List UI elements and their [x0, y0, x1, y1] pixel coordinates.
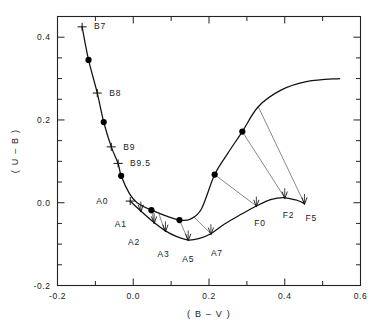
spectral-type-label: B9 — [123, 142, 135, 152]
color-color-diagram: -0.20.00.20.40.60.40.20.0-0.2( B – V )( … — [0, 0, 379, 334]
data-point-marker — [118, 173, 124, 179]
x-tick-label: 0.2 — [202, 291, 216, 301]
spectral-type-label: A5 — [182, 254, 194, 264]
y-tick-label: 0.4 — [37, 32, 51, 42]
data-point-marker — [239, 128, 245, 134]
y-tick-label: 0.0 — [37, 198, 51, 208]
data-point-marker — [101, 119, 107, 125]
curve-lower-curve — [130, 198, 304, 240]
reddening-connector-line — [194, 217, 211, 234]
spectral-type-label: A0 — [96, 196, 108, 206]
data-point-marker — [85, 57, 91, 63]
spectral-type-marker-F2: F2 — [282, 188, 294, 220]
reddening-connector-line — [242, 132, 284, 198]
chart-canvas: -0.20.00.20.40.60.40.20.0-0.2( B – V )( … — [0, 0, 379, 334]
spectral-type-label: A3 — [157, 249, 169, 259]
y-tick-label: -0.2 — [33, 281, 50, 291]
x-tick-label: -0.2 — [49, 291, 66, 301]
x-axis-title: ( B – V ) — [187, 309, 231, 319]
spectral-type-marker-F5: F5 — [302, 194, 317, 223]
spectral-type-label: A7 — [211, 248, 223, 258]
spectral-type-marker-A5: A5 — [182, 230, 194, 264]
curve-upper-curve — [82, 27, 340, 221]
spectral-type-marker-A1: A1 — [115, 202, 144, 230]
x-tick-label: 0.6 — [354, 291, 368, 301]
spectral-type-marker-B7: B7 — [78, 21, 107, 31]
y-axis-title: ( U – B ) — [10, 129, 20, 173]
reddening-connector-line — [258, 107, 304, 204]
spectral-type-label: B7 — [94, 21, 106, 31]
spectral-type-label: B9.5 — [130, 158, 151, 168]
reddening-connector-line — [215, 175, 257, 206]
y-tick-label: 0.2 — [37, 115, 51, 125]
spectral-type-label: F0 — [254, 218, 266, 228]
spectral-type-label: A2 — [128, 237, 140, 247]
spectral-type-label: B8 — [109, 88, 121, 98]
data-point-marker — [212, 171, 218, 177]
spectral-type-marker-F0: F0 — [254, 197, 266, 229]
spectral-type-marker-B9: B9 — [107, 142, 136, 152]
x-tick-label: 0.4 — [278, 291, 292, 301]
spectral-type-label: F5 — [305, 213, 317, 223]
spectral-type-label: F2 — [283, 210, 295, 220]
x-tick-label: 0.0 — [126, 291, 140, 301]
spectral-type-marker-A0: A0 — [96, 196, 135, 206]
spectral-type-marker-A2: A2 — [128, 213, 157, 247]
data-point-marker — [148, 207, 154, 213]
spectral-type-marker-A7: A7 — [208, 224, 223, 258]
spectral-type-label: A1 — [115, 219, 127, 229]
plot-frame — [58, 17, 361, 286]
data-point-marker — [176, 217, 182, 223]
spectral-type-marker-B8: B8 — [93, 88, 122, 98]
